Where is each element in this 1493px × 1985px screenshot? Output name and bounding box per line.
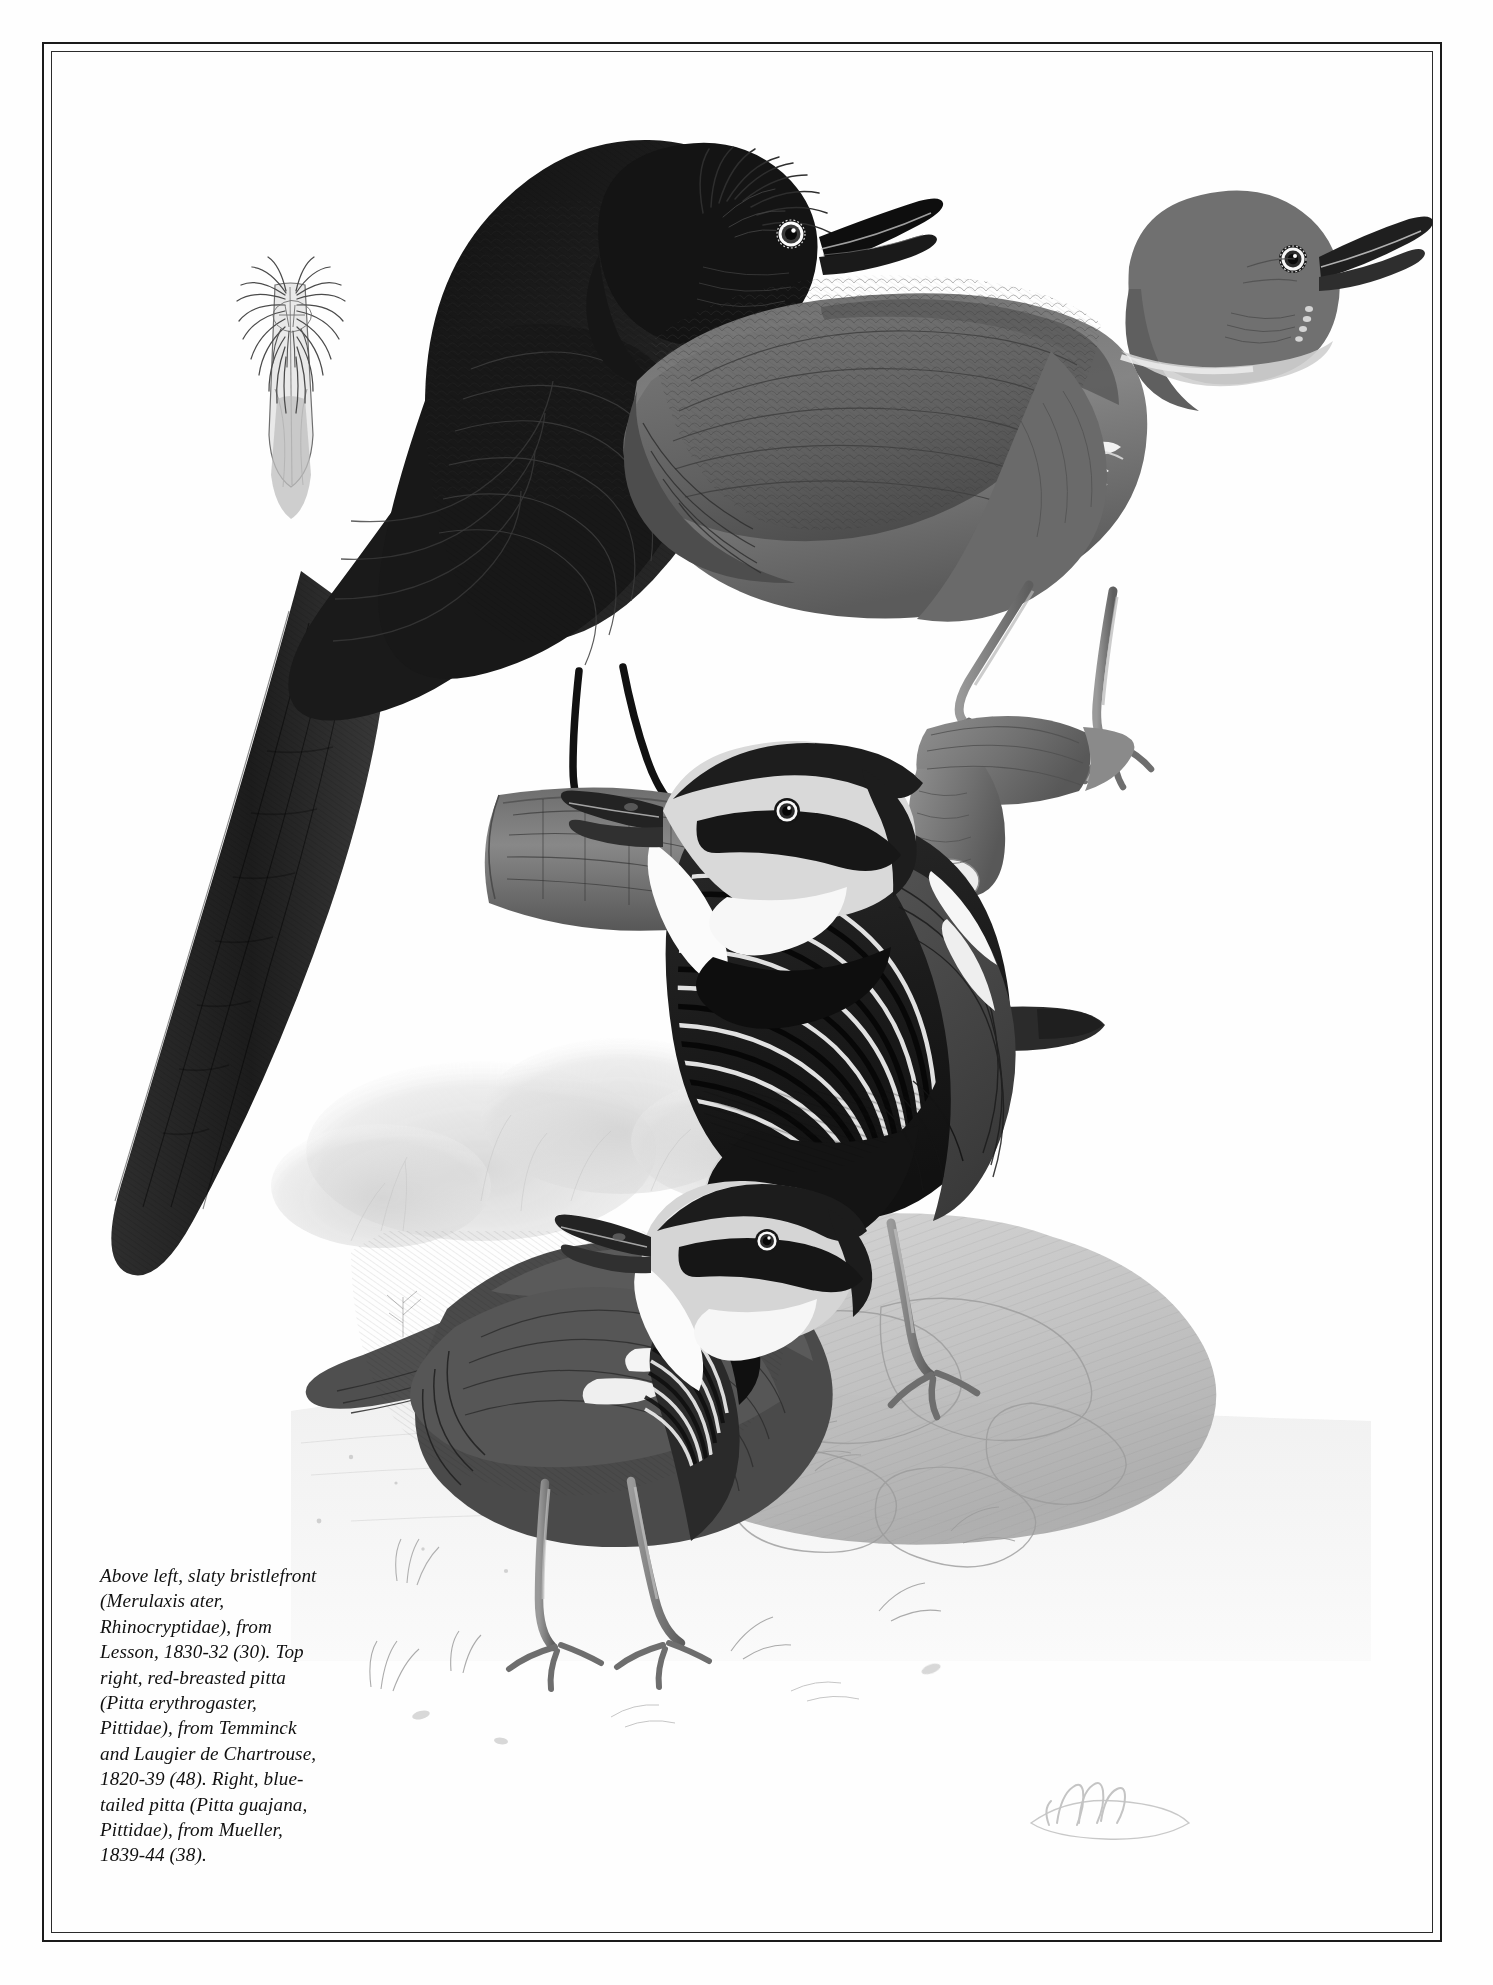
artist-signature xyxy=(1031,1783,1189,1839)
plate-caption: Above left, slaty bristlefront (Merulaxi… xyxy=(100,1563,335,1868)
bill-detail-study xyxy=(237,257,345,519)
plate-page: Above left, slaty bristlefront (Merulaxi… xyxy=(0,0,1493,1985)
